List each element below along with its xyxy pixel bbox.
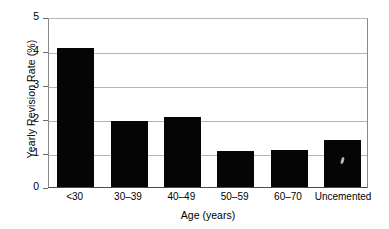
bar xyxy=(164,117,201,187)
plot-area xyxy=(48,18,368,188)
x-tick-label: <30 xyxy=(48,191,101,203)
x-tick-label: 60–70 xyxy=(261,191,314,203)
bar xyxy=(271,150,308,187)
x-axis-tick-labels: <3030–3940–4950–5960–70Uncemented xyxy=(48,191,368,207)
x-tick-label: 30–39 xyxy=(101,191,154,203)
y-tick-mark xyxy=(43,188,48,189)
y-axis-ticks: 012345 xyxy=(0,18,48,188)
x-tick-label: 40–49 xyxy=(155,191,208,203)
y-tick-label: 0 xyxy=(33,181,39,192)
y-tick-label: 4 xyxy=(33,45,39,56)
x-tick-label: Uncemented xyxy=(315,191,368,203)
y-tick-label: 5 xyxy=(33,11,39,22)
y-tick-label: 2 xyxy=(33,113,39,124)
x-tick-label: 50–59 xyxy=(208,191,261,203)
y-tick-label: 3 xyxy=(33,79,39,90)
bar xyxy=(217,151,254,187)
bar xyxy=(111,121,148,187)
bar-chart-figure: Yearly Revision Rate (%) 012345 <3030–39… xyxy=(0,0,389,229)
x-axis-title: Age (years) xyxy=(48,209,368,221)
y-tick-label: 1 xyxy=(33,147,39,158)
bar-series xyxy=(49,19,367,187)
bar xyxy=(57,48,94,187)
bar xyxy=(324,140,361,187)
scan-artifact xyxy=(340,157,345,165)
